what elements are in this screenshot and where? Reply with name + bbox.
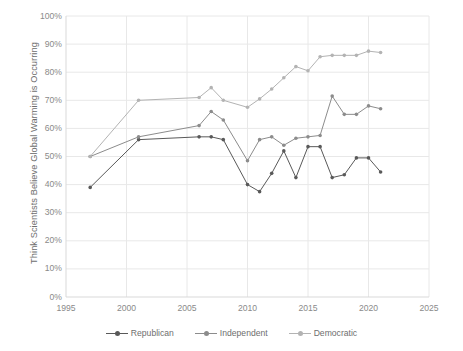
x-tick-label: 2005 (162, 303, 212, 313)
data-point (379, 107, 383, 111)
data-point (197, 124, 201, 128)
data-point (379, 51, 383, 55)
legend-label: Democratic (314, 328, 357, 338)
data-point (197, 96, 201, 100)
y-tick-label: 70% (22, 96, 62, 105)
x-tick-label: 2025 (404, 303, 454, 313)
x-tick-label: 2020 (344, 303, 394, 313)
y-tick-label: 60% (22, 124, 62, 133)
y-tick-label: 0% (22, 293, 62, 302)
y-tick-label: 100% (22, 12, 62, 21)
data-point (222, 99, 226, 103)
data-point (367, 104, 371, 108)
data-series-group (88, 49, 382, 193)
data-point (197, 135, 201, 139)
legend-label: Independent (220, 328, 268, 338)
y-tick-label: 10% (22, 264, 62, 273)
data-point (355, 113, 359, 117)
y-tick-label: 20% (22, 236, 62, 245)
y-tick-label: 80% (22, 68, 62, 77)
data-point (88, 186, 92, 190)
data-point (343, 173, 347, 177)
data-point (209, 135, 213, 139)
data-point (318, 134, 322, 138)
y-axis-tick-labels: 0%10%20%30%40%50%60%70%80%90%100% (18, 0, 62, 351)
data-point (306, 145, 310, 149)
legend-item-democratic[interactable]: Democratic (289, 328, 357, 338)
data-point (343, 113, 347, 117)
data-point (330, 54, 334, 58)
data-point (330, 176, 334, 180)
data-point (258, 97, 262, 101)
data-point (209, 86, 213, 90)
data-point (306, 135, 310, 139)
legend-marker-icon (106, 329, 128, 337)
legend-marker-icon (195, 329, 217, 337)
legend-item-independent[interactable]: Independent (195, 328, 268, 338)
y-tick-label: 90% (22, 40, 62, 49)
x-tick-label: 2000 (102, 303, 152, 313)
data-point (246, 106, 250, 110)
legend-label: Republican (131, 328, 174, 338)
data-point (222, 138, 226, 142)
data-point (258, 190, 262, 194)
y-tick-label: 50% (22, 152, 62, 161)
data-point (282, 149, 286, 153)
data-point (367, 156, 371, 160)
legend-marker-icon (289, 329, 311, 337)
data-point (367, 49, 371, 53)
series-line (90, 137, 380, 192)
data-point (137, 135, 141, 139)
y-tick-label: 30% (22, 208, 62, 217)
data-point (270, 172, 274, 176)
data-point (306, 69, 310, 73)
data-point (318, 55, 322, 59)
data-point (246, 183, 250, 187)
chart-legend: RepublicanIndependentDemocratic (0, 328, 463, 338)
series-democratic (88, 49, 382, 158)
legend-item-republican[interactable]: Republican (106, 328, 174, 338)
x-tick-label: 1995 (41, 303, 91, 313)
data-point (282, 143, 286, 147)
data-point (222, 118, 226, 122)
x-tick-label: 2015 (283, 303, 333, 313)
data-point (294, 176, 298, 180)
data-point (246, 159, 250, 163)
data-point (270, 87, 274, 91)
data-point (270, 135, 274, 139)
line-chart: Think Scientists Believe Global Warming … (0, 0, 463, 351)
data-point (343, 54, 347, 58)
y-tick-label: 40% (22, 180, 62, 189)
data-point (137, 99, 141, 103)
data-point (209, 110, 213, 114)
data-point (330, 94, 334, 98)
plot-area (0, 0, 463, 351)
gridlines (66, 16, 429, 297)
data-point (294, 65, 298, 69)
data-point (318, 145, 322, 149)
data-point (379, 170, 383, 174)
data-point (355, 156, 359, 160)
data-point (355, 54, 359, 58)
x-tick-label: 2010 (223, 303, 273, 313)
data-point (258, 138, 262, 142)
data-point (294, 136, 298, 140)
data-point (88, 155, 92, 159)
data-point (282, 76, 286, 80)
